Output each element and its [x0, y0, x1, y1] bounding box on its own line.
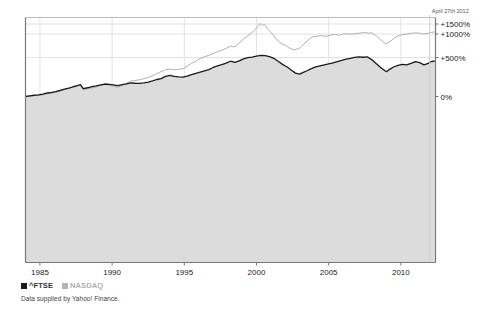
stock-comparison-chart: 0%+500%+1000%+1500% 19851990199520002005… [0, 0, 491, 310]
x-tick-label: 1990 [103, 268, 121, 277]
annotation-label: April 27th 2012 [432, 8, 469, 14]
x-tick-label: 1995 [175, 268, 193, 277]
x-tick-label: 2000 [248, 268, 266, 277]
y-tick-label: +1500% [441, 20, 471, 29]
data-source-caption: Data supplied by Yahoo! Finance. [21, 295, 120, 302]
y-tick-label: +500% [441, 54, 466, 63]
legend-item-ftse[interactable]: ^FTSE [21, 282, 53, 290]
x-tick-label: 1985 [31, 268, 49, 277]
legend-swatch-ftse [21, 283, 27, 289]
plot-canvas: 0%+500%+1000%+1500% 19851990199520002005… [0, 0, 491, 310]
y-tick-label: +1000% [441, 30, 471, 39]
chart-page: 0%+500%+1000%+1500% 19851990199520002005… [0, 0, 491, 310]
legend-swatch-nasdaq [62, 283, 68, 289]
chart-legend: ^FTSE NASDAQ [21, 280, 103, 291]
x-tick-label: 2005 [320, 268, 338, 277]
x-tick-label: 2010 [392, 268, 410, 277]
y-axis-ticks: 0%+500%+1000%+1500% [436, 20, 471, 102]
x-axis-ticks: 198519901995200020052010 [31, 263, 410, 277]
legend-label-ftse: ^FTSE [29, 282, 53, 290]
legend-item-nasdaq[interactable]: NASDAQ [62, 282, 103, 290]
legend-label-nasdaq: NASDAQ [70, 282, 103, 290]
y-tick-label: 0% [441, 93, 453, 102]
